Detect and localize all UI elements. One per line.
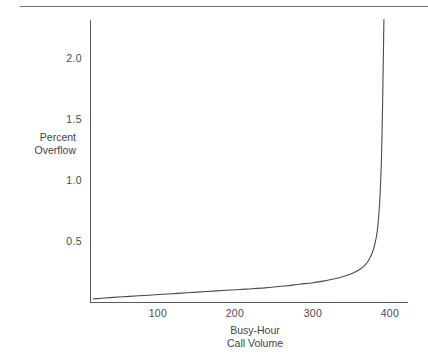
y-tick-label-1-5: 1.5	[48, 114, 82, 125]
y-tick-label-1-0: 1.0	[48, 175, 82, 186]
x-tick-label-100: 100	[138, 308, 178, 319]
x-axis-title: Busy-Hour Call Volume	[195, 324, 315, 350]
x-tick-label-200: 200	[215, 308, 255, 319]
x-axis-line	[90, 302, 408, 303]
y-axis-title-line-2: Overflow	[14, 144, 76, 157]
y-tick-label-0-5: 0.5	[48, 236, 82, 247]
x-axis-title-line-2: Call Volume	[195, 337, 315, 350]
x-tick-label-300: 300	[293, 308, 333, 319]
overflow-curve-path	[94, 19, 384, 298]
x-tick-label-400: 400	[370, 308, 410, 319]
chart-figure: Percent Overflow 2.0 1.5 1.0 0.5 100 200…	[0, 0, 428, 363]
y-axis-title: Percent Overflow	[14, 131, 76, 157]
top-divider-rule	[20, 6, 428, 7]
y-axis-line	[90, 20, 91, 303]
x-axis-title-line-1: Busy-Hour	[195, 324, 315, 337]
y-tick-label-2-0: 2.0	[48, 53, 82, 64]
y-axis-title-line-1: Percent	[14, 131, 76, 144]
